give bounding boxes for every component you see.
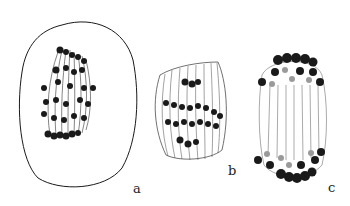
figure-canvas (0, 0, 350, 206)
chromosomes-b (163, 79, 223, 148)
cell-membrane (19, 22, 136, 187)
spindle-fibers-c (268, 85, 319, 160)
panel-label-c: c (328, 180, 335, 195)
chromosomes-c-light (264, 67, 314, 168)
panel-label-b: b (228, 163, 236, 178)
panel-a (19, 22, 136, 187)
panel-b (155, 62, 226, 160)
panel-label-a: a (133, 181, 141, 196)
panel-c (254, 53, 327, 183)
